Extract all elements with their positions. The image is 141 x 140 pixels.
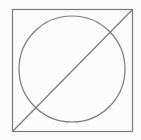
- diagonal-line: [13, 10, 133, 132]
- diagram-canvas: [0, 0, 141, 140]
- geometry-diagram: [0, 0, 141, 140]
- inscribed-circle: [19, 16, 125, 122]
